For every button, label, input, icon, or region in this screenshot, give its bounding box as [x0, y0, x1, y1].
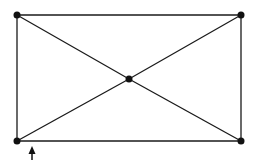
node-center: [126, 76, 133, 83]
graph-diagram: [0, 0, 258, 160]
up-arrow-icon: [29, 146, 36, 160]
edge-diagonal-center-bl: [17, 79, 129, 141]
node-top-right: [238, 12, 245, 19]
edge-diagonal-tl-center: [17, 15, 129, 79]
edge-diagonal-center-br: [129, 79, 241, 141]
node-bottom-left: [14, 138, 21, 145]
edge-diagonal-tr-center: [129, 15, 241, 79]
node-bottom-right: [238, 138, 245, 145]
nodes: [14, 12, 245, 145]
diagram-canvas: [0, 0, 258, 160]
node-top-left: [14, 12, 21, 19]
